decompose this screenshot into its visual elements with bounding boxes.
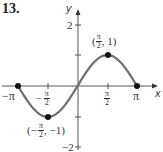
point-label-min: ( − π 2 , −1 )	[27, 122, 65, 139]
sine-graph	[0, 0, 163, 152]
denominator: 2	[39, 131, 43, 139]
y-tick-label-neg2: −2	[62, 142, 74, 152]
x-tick-label-neg-pi-half: − π 2	[36, 90, 50, 107]
point-min	[45, 114, 51, 120]
minus-sign: −	[31, 125, 37, 136]
x-axis-label: x	[155, 88, 161, 99]
fraction: π 2	[44, 90, 50, 107]
x-tick-label-neg-pi: −π	[2, 90, 15, 102]
denominator: 2	[105, 99, 109, 107]
x-tick-label-pi: π	[133, 90, 139, 102]
point-neg-pi	[15, 83, 21, 89]
denominator: 2	[97, 42, 101, 50]
point-label-max: ( π 2 , 1 )	[92, 33, 116, 50]
minus-sign: −	[36, 94, 42, 104]
y-axis-arrow-icon	[76, 9, 81, 15]
denominator: 2	[45, 99, 49, 107]
y-tick-label-2: 2	[67, 20, 73, 31]
close-paren: )	[61, 125, 65, 136]
y-axis-label: y	[66, 3, 72, 14]
x-tick-label-pi-half: π 2	[104, 90, 110, 107]
point-max	[105, 52, 111, 58]
close-paren: )	[113, 36, 117, 47]
y-value: −1	[49, 125, 61, 136]
fraction: π 2	[104, 90, 110, 107]
